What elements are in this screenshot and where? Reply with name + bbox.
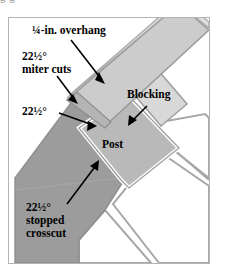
label-stopped-crosscut-line2: stopped — [26, 214, 66, 227]
arrow-line-overhang — [71, 40, 102, 80]
label-stopped-crosscut: 22½° stopped crosscut — [26, 201, 66, 240]
label-overhang: ¼-in. overhang — [32, 24, 106, 37]
figure-frame: ¼-in. overhang 22½° miter cuts 22½° Bloc… — [8, 17, 210, 264]
figure-root: g g — [0, 0, 226, 272]
clipped-caption-above-figure: g g — [0, 0, 226, 5]
label-stopped-crosscut-line3: crosscut — [26, 227, 66, 240]
label-stopped-crosscut-line1: 22½° — [26, 201, 66, 214]
label-blocking: Blocking — [127, 88, 170, 101]
label-angle-mid: 22½° — [22, 105, 47, 118]
label-miter-cuts-line1: 22½° — [22, 50, 71, 63]
label-post: Post — [102, 138, 123, 151]
label-miter-cuts: 22½° miter cuts — [22, 50, 71, 76]
label-miter-cuts-line2: miter cuts — [22, 63, 71, 76]
